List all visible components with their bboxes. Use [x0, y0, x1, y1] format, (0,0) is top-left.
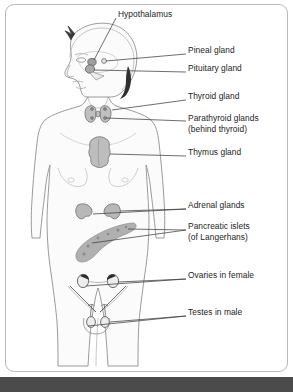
- pineal-gland: [102, 59, 107, 64]
- label-pancreatic-sub: (of Langerhans): [188, 232, 248, 243]
- thymus-gland: [89, 137, 110, 168]
- label-parathyroid-glands: Parathyroid glands: [188, 113, 259, 124]
- endocrine-figure: [0, 0, 293, 392]
- label-testes-in-male: Testes in male: [188, 307, 242, 318]
- label-thymus-gland: Thymus gland: [188, 147, 241, 158]
- leader-thyroid: [112, 100, 186, 110]
- label-thyroid-gland: Thyroid gland: [188, 91, 239, 102]
- label-adrenal-glands: Adrenal glands: [188, 200, 245, 211]
- label-pituitary-gland: Pituitary gland: [188, 63, 242, 74]
- label-pancreatic-islets: Pancreatic islets: [188, 221, 250, 232]
- head-profile: [65, 23, 137, 99]
- bottom-band: [0, 377, 293, 392]
- label-pineal-gland: Pineal gland: [188, 45, 235, 56]
- diagram-page: Hypothalamus Pineal gland Pituitary glan…: [0, 0, 293, 392]
- label-parathyroid-sub: (behind thyroid): [188, 124, 247, 135]
- label-ovaries-in-female: Ovaries in female: [188, 270, 254, 281]
- label-hypothalamus: Hypothalamus: [118, 9, 172, 20]
